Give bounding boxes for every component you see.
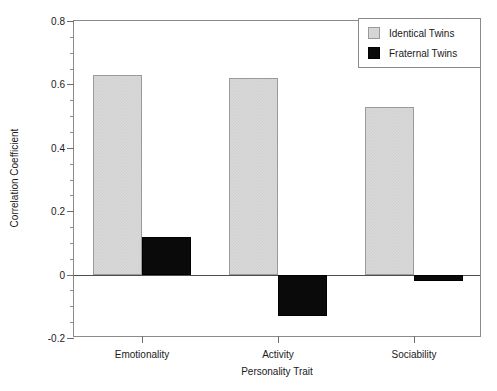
y-tick-label: 0.2 bbox=[51, 206, 65, 217]
legend-label: Fraternal Twins bbox=[389, 48, 457, 59]
y-tick-minor bbox=[70, 306, 74, 307]
y-tick-minor bbox=[70, 227, 74, 228]
y-tick-minor bbox=[70, 322, 74, 323]
y-tick-minor bbox=[70, 53, 74, 54]
y-tick-minor bbox=[70, 100, 74, 101]
legend-item: Fraternal Twins bbox=[368, 45, 472, 61]
y-tick-minor bbox=[70, 69, 74, 70]
bar-sociability-fraternal bbox=[414, 275, 463, 281]
bar-emotionality-identical bbox=[93, 75, 142, 275]
y-tick-major bbox=[67, 338, 74, 339]
bar-sociability-identical bbox=[365, 107, 414, 275]
x-tick-major bbox=[414, 336, 415, 343]
y-tick-minor bbox=[70, 132, 74, 133]
y-tick-label: 0.4 bbox=[51, 142, 65, 153]
x-tick-major bbox=[142, 336, 143, 343]
x-tick-label: Emotionality bbox=[115, 349, 169, 360]
y-tick-minor bbox=[70, 243, 74, 244]
y-tick-major bbox=[67, 275, 74, 276]
y-axis-title: Correlation Coefficient bbox=[9, 129, 20, 228]
y-tick-minor bbox=[70, 259, 74, 260]
bar-activity-identical bbox=[229, 78, 278, 275]
y-tick-major bbox=[67, 148, 74, 149]
bar-chart-figure: Correlation Coefficient Personality Trai… bbox=[0, 0, 497, 391]
x-tick-major bbox=[278, 336, 279, 343]
y-tick-minor bbox=[70, 164, 74, 165]
legend-swatch-fraternal-icon bbox=[368, 47, 380, 59]
y-tick-major bbox=[67, 84, 74, 85]
bar-emotionality-fraternal bbox=[142, 237, 191, 275]
y-tick-label: 0.6 bbox=[51, 79, 65, 90]
legend: Identical TwinsFraternal Twins bbox=[358, 18, 481, 68]
y-tick-minor bbox=[70, 290, 74, 291]
y-tick-minor bbox=[70, 37, 74, 38]
y-tick-minor bbox=[70, 195, 74, 196]
x-tick-label: Activity bbox=[262, 349, 294, 360]
y-tick-label: -0.2 bbox=[48, 333, 65, 344]
legend-item: Identical Twins bbox=[368, 25, 472, 41]
legend-label: Identical Twins bbox=[389, 28, 454, 39]
x-tick-label: Sociability bbox=[391, 349, 436, 360]
y-tick-minor bbox=[70, 180, 74, 181]
y-tick-major bbox=[67, 21, 74, 22]
y-tick-minor bbox=[70, 116, 74, 117]
y-tick-label: 0 bbox=[59, 269, 65, 280]
y-tick-major bbox=[67, 211, 74, 212]
legend-swatch-identical-icon bbox=[368, 27, 380, 39]
x-axis-title: Personality Trait bbox=[241, 366, 313, 377]
bar-activity-fraternal bbox=[278, 275, 327, 316]
y-tick-label: 0.8 bbox=[51, 16, 65, 27]
